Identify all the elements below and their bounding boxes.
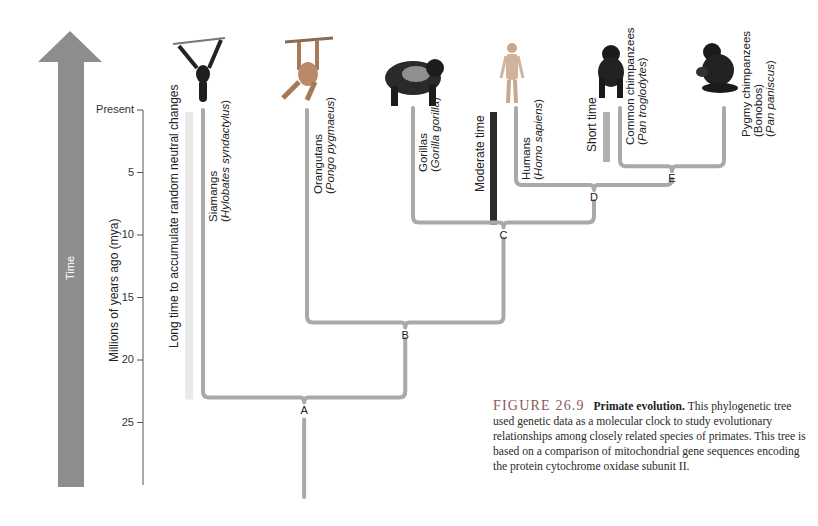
species-scientific-name: Pongo pygmaeus	[324, 101, 336, 191]
figure-number: FIGURE 26.9	[493, 398, 585, 413]
species-label-bonobo: Pygmy chimpanzees (Bonobos) (Pan paniscu…	[740, 31, 776, 137]
node-label-E: E	[665, 172, 679, 184]
chimpanzee-icon	[598, 45, 624, 98]
node-label-A: A	[297, 404, 311, 416]
species-label-human: Humans (Homo sapiens)	[520, 99, 544, 180]
species-label-orangutan: Orangutans (Pongo pygmaeus)	[312, 97, 336, 194]
axis-title: Millions of years ago (mya)	[108, 219, 120, 362]
primate-phylogeny-figure: Time Present510152025 Millions of years …	[0, 0, 818, 526]
species-label-siamang: Siamangs (Hylobates syndactylus)	[207, 100, 231, 222]
species-label-common-chimpanzee: Common chimpanzees (Pan troglodytes)	[624, 27, 648, 145]
axis-tick-label: 15	[74, 291, 134, 303]
axis-tick-label: 10	[74, 228, 134, 240]
axis-tick-label: 20	[74, 353, 134, 365]
species-common-name: Common chimpanzees	[624, 27, 636, 145]
moderate-time-bar	[490, 112, 497, 225]
species-alt-name: (Bonobos)	[752, 84, 764, 137]
orangutan-icon	[283, 38, 333, 100]
axis-tick-label: Present	[74, 103, 134, 115]
node-label-D: D	[587, 191, 601, 203]
species-scientific-name: Gorilla gorilla	[429, 101, 441, 168]
figure-title: Primate evolution.	[593, 400, 684, 413]
node-label-C: C	[497, 229, 511, 241]
bonobo-icon	[696, 43, 738, 93]
long-time-bar	[185, 112, 193, 400]
species-common-name: Gorillas	[417, 133, 429, 172]
branch-node-A	[203, 110, 405, 403]
species-common-name: Humans	[520, 137, 532, 180]
species-scientific-name: Hylobates syndactylus	[219, 104, 231, 218]
species-scientific-name: Pan paniscus	[764, 64, 776, 133]
long-time-label: Long time to accumulate random neutral c…	[168, 85, 180, 349]
species-common-name: Pygmy chimpanzees	[740, 31, 752, 137]
species-scientific-name: Pan troglodytes	[636, 61, 648, 141]
axis-tick-label: 25	[74, 416, 134, 428]
species-scientific-name: Homo sapiens	[532, 103, 544, 177]
short-time-label: Short time	[586, 97, 598, 152]
moderate-time-label: Moderate time	[474, 115, 486, 192]
species-common-name: Orangutans	[312, 134, 324, 194]
species-label-gorilla: Gorillas (Gorilla gorilla)	[417, 97, 441, 172]
time-arrow-label: Time	[64, 253, 76, 283]
axis-tick-label: 5	[74, 166, 134, 178]
y-axis	[137, 110, 143, 485]
species-common-name: Siamangs	[207, 171, 219, 222]
short-time-bar	[603, 112, 610, 162]
human-icon	[501, 43, 523, 103]
node-label-B: B	[398, 329, 412, 341]
time-arrow-head	[38, 31, 102, 62]
figure-caption: FIGURE 26.9 Primate evolution. This phyl…	[493, 398, 813, 474]
